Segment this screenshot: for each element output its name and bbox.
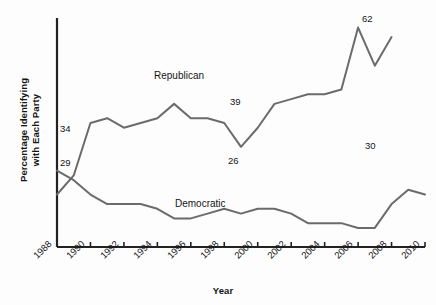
value-label-62: 62 xyxy=(362,13,373,24)
x-axis-title: Year xyxy=(178,285,268,296)
y-axis-title-line2: with Each Party xyxy=(30,60,42,200)
democratic-series-label: Democratic xyxy=(175,198,226,209)
series-lines xyxy=(57,28,425,228)
value-label-26: 26 xyxy=(228,155,239,166)
republican-series-label: Republican xyxy=(154,70,204,81)
y-axis-title-line1: Percentage Identifying xyxy=(18,60,30,200)
democratic-line xyxy=(57,171,425,228)
value-label-39: 39 xyxy=(230,96,241,107)
value-label-30: 30 xyxy=(365,140,376,151)
line-chart-figure: Percentage Identifying with Each Party Y… xyxy=(0,0,436,305)
value-label-29: 29 xyxy=(60,157,71,168)
value-label-34: 34 xyxy=(60,123,71,134)
republican-line xyxy=(57,28,392,195)
chart-plot-area xyxy=(0,0,436,305)
y-axis-title: Percentage Identifying with Each Party xyxy=(18,60,42,200)
